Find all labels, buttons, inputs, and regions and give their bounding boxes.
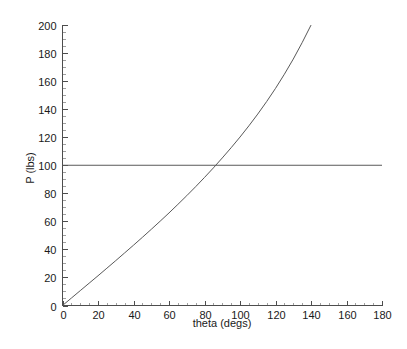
x-tick-label: 120 [267, 309, 285, 321]
chart-background [0, 0, 407, 349]
y-tick-label: 100 [38, 160, 56, 172]
y-tick-label: 20 [44, 272, 56, 284]
y-tick-label: 140 [38, 104, 56, 116]
x-tick-label: 160 [338, 309, 356, 321]
y-tick-label: 160 [38, 76, 56, 88]
y-tick-label: 0 [50, 301, 56, 313]
x-tick-label: 140 [302, 309, 320, 321]
x-tick-label: 40 [128, 309, 140, 321]
x-tick-label: 0 [60, 309, 66, 321]
y-tick-label: 120 [38, 132, 56, 144]
chart-canvas: 020406080100120140160180 020406080100120… [0, 0, 407, 349]
y-tick-label: 60 [44, 216, 56, 228]
x-tick-label: 60 [163, 309, 175, 321]
chart-figure: 020406080100120140160180 020406080100120… [0, 0, 407, 349]
y-tick-label: 40 [44, 244, 56, 256]
x-axis-title: theta (degs) [193, 317, 252, 329]
y-tick-label: 180 [38, 48, 56, 60]
x-tick-label: 180 [373, 309, 391, 321]
y-tick-label: 80 [44, 188, 56, 200]
x-tick-label: 20 [92, 309, 104, 321]
y-axis-title: P (lbs) [24, 152, 36, 184]
y-tick-label: 200 [38, 20, 56, 32]
